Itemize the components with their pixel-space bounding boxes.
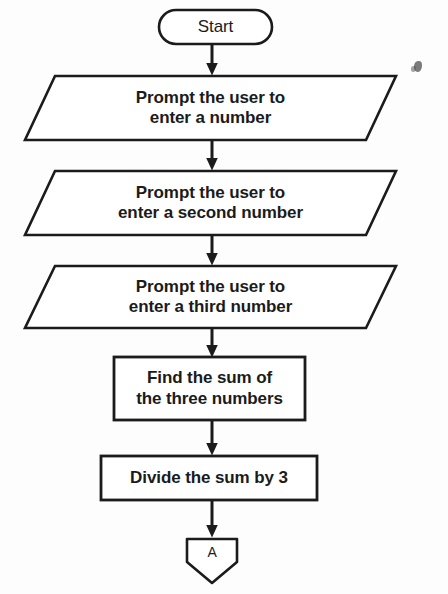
flowchart-shapes — [0, 0, 448, 594]
input-third-shape — [25, 266, 396, 328]
input-first-shape — [25, 76, 396, 140]
find-sum-shape — [114, 357, 305, 420]
connector-a-shape — [187, 539, 237, 583]
input-second-shape — [25, 171, 396, 235]
start-terminator-shape — [159, 10, 272, 44]
flowchart-canvas: Start Prompt the user to enter a number … — [0, 0, 448, 594]
divide-sum-shape — [101, 456, 317, 500]
